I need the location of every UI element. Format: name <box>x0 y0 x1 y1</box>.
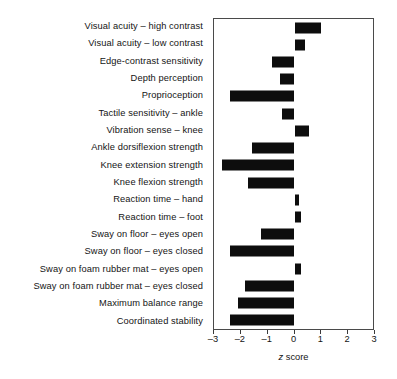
bar-row <box>214 277 373 294</box>
x-axis-tick-label: 0 <box>291 335 296 344</box>
bar <box>295 212 302 223</box>
bar-row <box>214 88 373 105</box>
bar-row <box>214 208 373 225</box>
category-label: Edge-contrast sensitivity <box>0 53 208 70</box>
x-axis-tick-label: 3 <box>371 335 376 344</box>
bar-row <box>214 19 373 36</box>
x-axis-tick-label: 1 <box>318 335 323 344</box>
x-axis-title-text: score <box>283 352 308 362</box>
bar-row <box>214 243 373 260</box>
bar <box>280 74 295 85</box>
bar-row <box>214 312 373 329</box>
bar-row <box>214 71 373 88</box>
category-axis-labels: Visual acuity – high contrastVisual acui… <box>0 18 208 330</box>
category-label: Visual acuity – high contrast <box>0 18 208 35</box>
category-label: Visual acuity – low contrast <box>0 35 208 52</box>
category-label: Knee flexion strength <box>0 174 208 191</box>
category-label: Maximum balance range <box>0 295 208 312</box>
x-axis-title: z score <box>213 352 374 362</box>
plot-area <box>213 18 374 330</box>
bar <box>295 22 322 33</box>
bar <box>252 143 295 154</box>
bar-series <box>214 19 373 329</box>
bar <box>295 194 299 205</box>
x-axis-tick-label: –1 <box>261 335 271 344</box>
bar-row <box>214 53 373 70</box>
bar-row <box>214 140 373 157</box>
z-score-bar-chart: Visual acuity – high contrastVisual acui… <box>0 0 397 379</box>
category-label: Tactile sensitivity – ankle <box>0 105 208 122</box>
bar <box>282 108 294 119</box>
bar <box>230 91 294 102</box>
bar-row <box>214 122 373 139</box>
bar <box>248 177 295 188</box>
category-label: Reaction time – foot <box>0 209 208 226</box>
category-label: Ankle dorsiflexion strength <box>0 139 208 156</box>
category-label: Knee extension strength <box>0 157 208 174</box>
bar <box>295 263 302 274</box>
bar <box>222 160 294 171</box>
category-label: Reaction time – hand <box>0 191 208 208</box>
bar <box>230 246 294 257</box>
bar-row <box>214 191 373 208</box>
category-label: Sway on foam rubber mat – eyes open <box>0 261 208 278</box>
bar-row <box>214 174 373 191</box>
bar-row <box>214 157 373 174</box>
bar <box>261 229 295 240</box>
bar <box>295 125 310 136</box>
x-axis-tick-label: –3 <box>208 335 218 344</box>
category-label: Sway on floor – eyes open <box>0 226 208 243</box>
bar <box>295 39 306 50</box>
category-label: Coordinated stability <box>0 313 208 330</box>
category-label: Depth perception <box>0 70 208 87</box>
bar-row <box>214 295 373 312</box>
bar <box>230 315 294 326</box>
category-label: Proprioception <box>0 87 208 104</box>
category-label: Sway on floor – eyes closed <box>0 243 208 260</box>
bar <box>245 280 295 291</box>
bar-row <box>214 36 373 53</box>
category-label: Sway on foam rubber mat – eyes closed <box>0 278 208 295</box>
bar <box>238 298 294 309</box>
bar <box>272 57 295 68</box>
x-axis-tick-label: 2 <box>345 335 350 344</box>
bar-row <box>214 260 373 277</box>
x-axis: –3–2–10123 <box>213 330 374 338</box>
category-label: Vibration sense – knee <box>0 122 208 139</box>
x-axis-tick-label: –2 <box>235 335 245 344</box>
bar-row <box>214 226 373 243</box>
bar-row <box>214 105 373 122</box>
